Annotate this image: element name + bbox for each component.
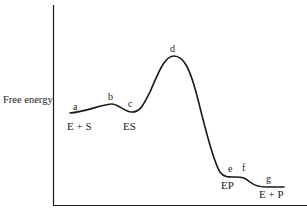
state-label-es: ES <box>123 120 136 132</box>
point-label-e: e <box>228 163 233 174</box>
free-energy-diagram: Free energy a b c d e f g E + S ES EP E … <box>0 0 307 210</box>
point-label-f: f <box>242 162 246 173</box>
point-label-a: a <box>73 101 78 112</box>
point-label-c: c <box>128 98 133 109</box>
point-label-b: b <box>108 91 113 102</box>
state-label-e-plus-p: E + P <box>259 188 284 200</box>
point-label-d: d <box>170 43 175 54</box>
point-label-g: g <box>266 173 271 184</box>
state-label-ep: EP <box>221 179 234 191</box>
reaction-energy-curve <box>70 56 284 187</box>
y-axis-label: Free energy <box>3 94 53 105</box>
state-labels: E + S ES EP E + P <box>67 120 284 200</box>
point-labels: a b c d e f g <box>73 43 271 184</box>
state-label-e-plus-s: E + S <box>67 120 92 132</box>
